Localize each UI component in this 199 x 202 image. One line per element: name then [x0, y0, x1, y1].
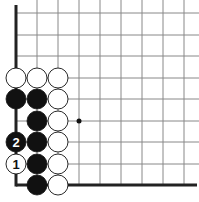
go-board-diagram: 21: [0, 0, 199, 202]
black-stone-move-2: 2: [6, 132, 26, 152]
white-stone: [48, 175, 68, 195]
white-stone: [48, 68, 68, 88]
move-number-label: 1: [12, 157, 19, 172]
star-point: [77, 119, 82, 124]
white-stone: [48, 111, 68, 131]
white-stone: [48, 132, 68, 152]
black-stone: [27, 175, 47, 195]
white-stone-move-1: 1: [6, 154, 26, 174]
white-stone: [6, 68, 26, 88]
white-stone: [27, 68, 47, 88]
white-stone: [48, 89, 68, 109]
hoshi-dot: [77, 119, 82, 124]
black-stone: [27, 132, 47, 152]
black-stone: [27, 111, 47, 131]
black-stone: [27, 154, 47, 174]
white-stone: [48, 154, 68, 174]
black-stone: [27, 89, 47, 109]
black-stone: [6, 89, 26, 109]
move-number-label: 2: [12, 135, 19, 150]
